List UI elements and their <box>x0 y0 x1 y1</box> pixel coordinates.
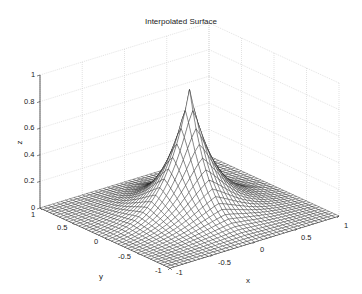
y-tick: 0 <box>94 237 98 246</box>
z-tick: 0.6 <box>24 123 34 132</box>
surface-mesh <box>40 90 339 268</box>
z-tick: 1 <box>31 70 35 79</box>
x-tick: 0.5 <box>301 233 311 242</box>
y-tick: 0.5 <box>57 223 67 232</box>
x-axis-label: x <box>246 276 250 285</box>
x-tick: -1 <box>176 268 183 277</box>
y-tick: -1 <box>155 266 162 275</box>
surface-plot <box>0 0 362 294</box>
y-tick: -0.5 <box>118 252 131 261</box>
x-tick: 1 <box>344 221 348 230</box>
x-tick: -0.5 <box>218 258 231 267</box>
z-tick: 0.8 <box>24 97 34 106</box>
z-axis-label: z <box>15 141 24 145</box>
chart-title: Interpolated Surface <box>0 17 362 26</box>
z-tick: 0.4 <box>24 150 34 159</box>
x-tick: 0 <box>260 245 264 254</box>
z-tick: 0.2 <box>24 176 34 185</box>
y-tick: 1 <box>31 210 35 219</box>
y-axis-label: y <box>99 272 103 281</box>
